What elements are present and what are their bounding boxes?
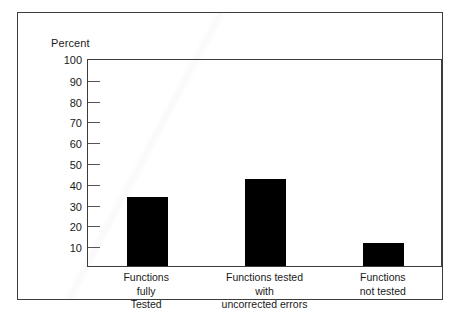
y-tick-20: 20 <box>88 226 100 227</box>
bar-0 <box>127 197 168 266</box>
y-tick-label-90: 90 <box>70 76 82 88</box>
y-tick-80: 80 <box>88 102 100 103</box>
y-tick-label-70: 70 <box>70 117 82 129</box>
y-tick-40: 40 <box>88 185 100 186</box>
y-tick-label-10: 10 <box>70 242 82 254</box>
plot-area: 100908070605040302010 <box>87 59 442 267</box>
y-tick-90: 90 <box>88 81 100 82</box>
x-axis-label-1: Functions tested with uncorrected errors <box>205 271 323 312</box>
y-tick-label-20: 20 <box>70 221 82 233</box>
y-tick-60: 60 <box>88 143 100 144</box>
x-axis-label-2: Functions not tested <box>324 271 442 298</box>
x-axis-label-0: Functions fully Tested <box>87 271 205 312</box>
y-tick-label-40: 40 <box>70 180 82 192</box>
y-tick-10: 10 <box>88 247 100 248</box>
bar-1 <box>245 179 286 266</box>
y-tick-label-60: 60 <box>70 138 82 150</box>
y-tick-label-30: 30 <box>70 201 82 213</box>
y-tick-label-50: 50 <box>70 159 82 171</box>
y-tick-50: 50 <box>88 164 100 165</box>
y-tick-label-100: 100 <box>64 54 82 66</box>
bar-2 <box>363 243 404 266</box>
y-axis-title: Percent <box>51 37 90 49</box>
y-tick-label-80: 80 <box>70 97 82 109</box>
y-tick-30: 30 <box>88 206 100 207</box>
figure-frame: Percent 100908070605040302010 Functions … <box>17 12 443 300</box>
y-tick-70: 70 <box>88 122 100 123</box>
